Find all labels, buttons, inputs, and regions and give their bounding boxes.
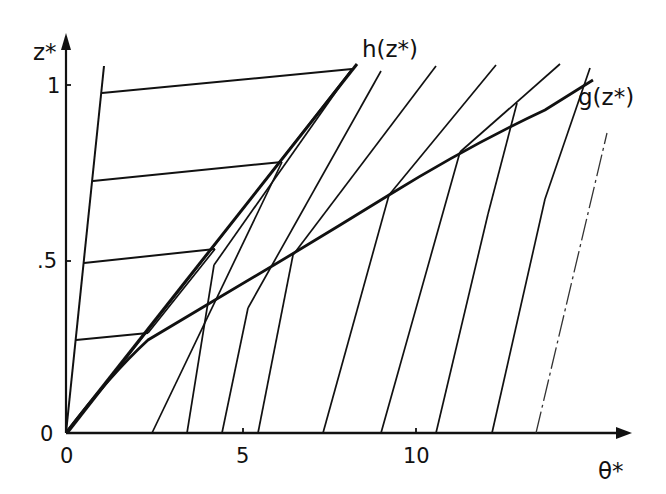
y-tick-label-0: 0 bbox=[40, 422, 53, 446]
x-tick-label-5: 5 bbox=[236, 444, 249, 468]
characteristic-3 bbox=[222, 308, 248, 433]
connector-3 bbox=[93, 162, 282, 181]
connector-4 bbox=[102, 69, 352, 93]
x-tick-label-10: 10 bbox=[403, 444, 430, 468]
curve-label-h: h(z*) bbox=[362, 36, 418, 62]
characteristic-4b bbox=[293, 66, 436, 255]
z-boundary-line bbox=[66, 66, 104, 433]
tick-labels: 0 5 10 0 .5 1 θ* z* h(z*) g(z*) bbox=[33, 36, 634, 484]
characteristic-lines bbox=[148, 64, 607, 433]
y-tick-label-1: 1 bbox=[47, 74, 60, 98]
connector-1 bbox=[76, 333, 148, 340]
y-axis-label: z* bbox=[33, 39, 57, 65]
curve-label-g: g(z*) bbox=[578, 84, 634, 110]
chart-canvas: 0 5 10 0 .5 1 θ* z* h(z*) g(z*) bbox=[0, 0, 666, 494]
x-axis-label: θ* bbox=[598, 458, 624, 484]
y-axis-arrow-icon bbox=[61, 33, 71, 50]
characteristic-7b bbox=[488, 103, 517, 214]
characteristic-8 bbox=[492, 199, 545, 433]
characteristic-9 bbox=[536, 133, 607, 433]
connector-2 bbox=[84, 249, 215, 263]
characteristic-7 bbox=[436, 214, 488, 433]
x-axis-arrow-icon bbox=[616, 427, 632, 439]
characteristic-6b bbox=[460, 64, 560, 152]
x-tick-label-0: 0 bbox=[60, 444, 73, 468]
h-curve-inner bbox=[68, 69, 352, 433]
characteristic-5b bbox=[389, 65, 496, 195]
y-tick-label-05: .5 bbox=[37, 249, 57, 273]
characteristic-2 bbox=[187, 265, 214, 433]
axes bbox=[61, 33, 632, 439]
